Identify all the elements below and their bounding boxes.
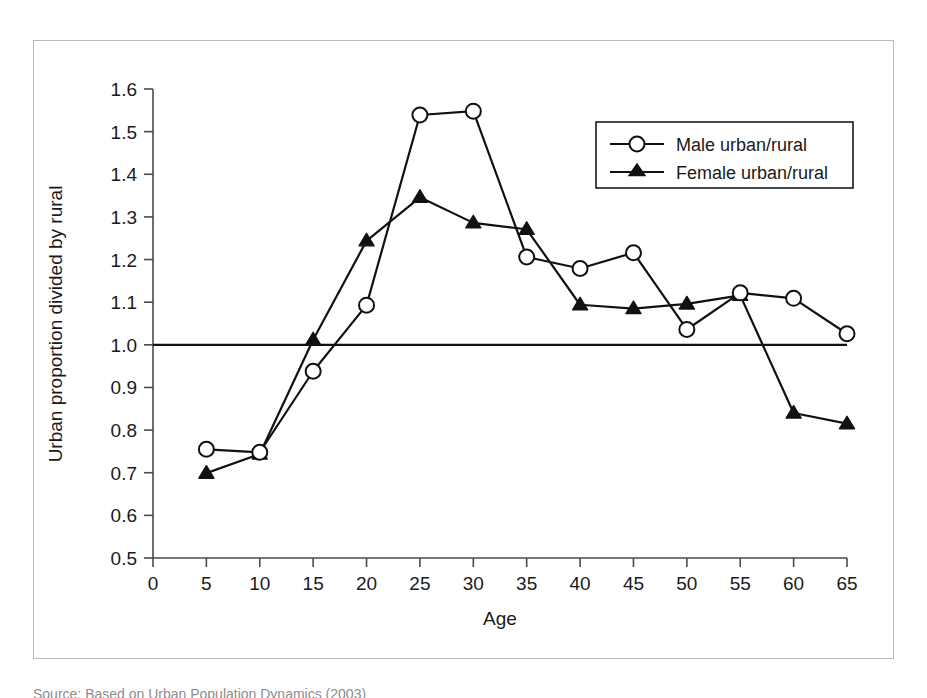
y-tick-label: 1.0 — [111, 335, 137, 356]
x-tick-label: 40 — [570, 573, 591, 594]
data-point-filled-triangle — [466, 215, 481, 227]
chart-legend: Male urban/rural Female urban/rural — [596, 122, 853, 188]
y-tick-label: 0.5 — [111, 548, 137, 569]
y-tick-label: 1.1 — [111, 292, 137, 313]
data-point-open-circle — [412, 108, 427, 123]
legend-entry-male: Male urban/rural — [610, 135, 807, 155]
open-circle-icon — [630, 137, 645, 152]
data-point-open-circle — [199, 442, 214, 457]
data-point-open-circle — [786, 291, 801, 306]
legend-label-male: Male urban/rural — [676, 135, 807, 155]
y-tick-label: 1.5 — [111, 122, 137, 143]
x-tick-label: 55 — [730, 573, 751, 594]
x-tick-label: 0 — [148, 573, 159, 594]
line-chart: 0.50.60.70.80.91.01.11.21.31.41.51.6 051… — [34, 41, 892, 657]
y-tick-label: 0.7 — [111, 463, 137, 484]
data-point-open-circle — [733, 285, 748, 300]
y-tick-label: 0.9 — [111, 377, 137, 398]
y-tick-label: 1.3 — [111, 207, 137, 228]
x-axis-title: Age — [483, 608, 517, 629]
legend-label-female: Female urban/rural — [676, 163, 828, 183]
x-tick-label: 20 — [356, 573, 377, 594]
data-point-open-circle — [306, 364, 321, 379]
data-point-open-circle — [573, 261, 588, 276]
x-tick-label: 30 — [463, 573, 484, 594]
data-point-open-circle — [679, 322, 694, 337]
y-tick-label: 1.6 — [111, 79, 137, 100]
figure-container: 0.50.60.70.80.91.01.11.21.31.41.51.6 051… — [0, 0, 927, 698]
data-point-open-circle — [519, 249, 534, 264]
y-tick-label: 1.4 — [111, 164, 138, 185]
data-point-open-circle — [840, 326, 855, 341]
x-tick-label: 60 — [783, 573, 804, 594]
data-point-open-circle — [626, 245, 641, 260]
data-point-filled-triangle — [412, 190, 427, 202]
figure-caption: Source: Based on Urban Population Dynami… — [33, 686, 733, 698]
y-tick-label: 0.8 — [111, 420, 137, 441]
y-tick-label: 1.2 — [111, 250, 137, 271]
x-tick-label: 5 — [201, 573, 212, 594]
data-point-open-circle — [359, 298, 374, 313]
y-tick-group: 0.50.60.70.80.91.01.11.21.31.41.51.6 — [111, 79, 153, 569]
y-tick-label: 0.6 — [111, 505, 137, 526]
data-point-open-circle — [466, 104, 481, 119]
data-point-filled-triangle — [306, 332, 321, 344]
x-tick-label: 10 — [249, 573, 270, 594]
series-female — [199, 190, 855, 478]
x-tick-label: 65 — [836, 573, 857, 594]
x-tick-label: 35 — [516, 573, 537, 594]
chart-frame: 0.50.60.70.80.91.01.11.21.31.41.51.6 051… — [33, 40, 894, 659]
data-point-filled-triangle — [786, 406, 801, 418]
y-axis-title: Urban proportion divided by rural — [45, 186, 66, 463]
x-tick-label: 45 — [623, 573, 644, 594]
x-tick-group: 05101520253035404550556065 — [148, 558, 858, 594]
data-point-open-circle — [252, 445, 267, 460]
x-tick-label: 25 — [409, 573, 430, 594]
x-tick-label: 50 — [676, 573, 697, 594]
x-tick-label: 15 — [303, 573, 324, 594]
